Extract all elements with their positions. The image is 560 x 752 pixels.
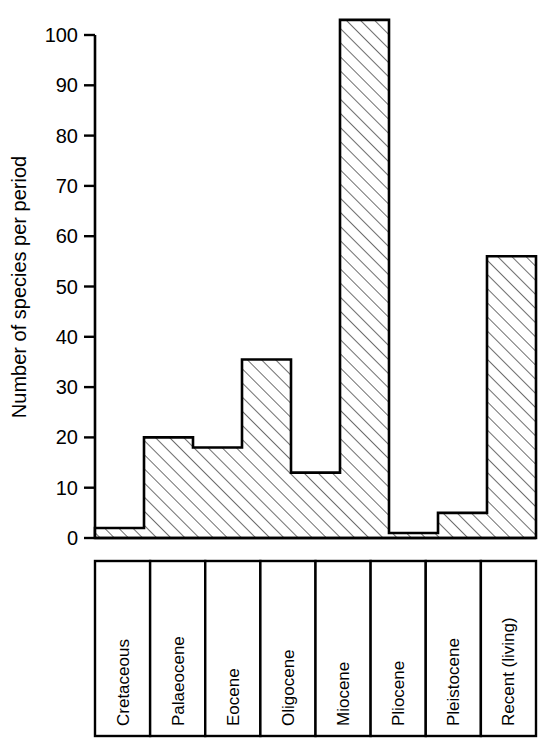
bar-pleistocene[interactable] (426, 20, 481, 538)
species-per-period-bar-chart: 0102030405060708090100 Number of species… (0, 0, 560, 752)
bars-group (95, 20, 536, 538)
y-axis-tick-label: 100 (45, 24, 78, 46)
y-axis-tick-label: 40 (56, 326, 78, 348)
bar-palaeocene[interactable] (150, 20, 205, 538)
bar-miocene[interactable] (316, 20, 371, 538)
category-label: Oligocene (279, 649, 298, 726)
category-label: Miocene (334, 662, 353, 726)
category-label: Cretaceous (114, 639, 133, 726)
category-label-boxes: CretaceousPalaeoceneEoceneOligoceneMioce… (95, 561, 536, 736)
category-label: Pleistocene (444, 638, 463, 726)
y-axis: 0102030405060708090100 Number of species… (8, 24, 95, 549)
y-axis-tick-label: 70 (56, 175, 78, 197)
y-axis-tick-label: 30 (56, 376, 78, 398)
category-label: Pliocene (389, 661, 408, 726)
bar-cretaceous[interactable] (95, 20, 150, 538)
y-axis-tick-label: 50 (56, 276, 78, 298)
y-axis-title: Number of species per period (8, 156, 30, 418)
bar-recent-living[interactable] (481, 20, 536, 538)
y-axis-tick-label: 20 (56, 426, 78, 448)
y-axis-tick-label: 90 (56, 74, 78, 96)
category-label: Palaeocene (169, 636, 188, 726)
y-axis-tick-label: 60 (56, 225, 78, 247)
category-label: Recent (living) (499, 617, 518, 726)
y-axis-tick-label: 80 (56, 125, 78, 147)
y-axis-tick-label: 10 (56, 477, 78, 499)
y-axis-ticks: 0102030405060708090100 (45, 24, 95, 549)
bar-eocene[interactable] (205, 20, 260, 538)
y-axis-tick-label: 0 (67, 527, 78, 549)
category-label: Eocene (224, 668, 243, 726)
chart-container: 0102030405060708090100 Number of species… (0, 0, 560, 752)
bar-oligocene[interactable] (260, 20, 315, 538)
bar-pliocene[interactable] (371, 20, 426, 538)
